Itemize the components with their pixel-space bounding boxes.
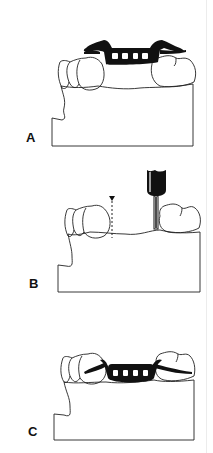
panel-b: B [0,150,213,300]
cast-with-framework-illustration [0,0,213,150]
panel-c: C [0,300,213,453]
arrowhead-icon [109,196,115,201]
panel-a: A [0,0,213,150]
panel-label-b: B [29,276,38,291]
bur-tool [147,170,166,229]
mesh-hole [112,53,118,59]
panel-label-a: A [26,130,35,145]
panel-label-c: C [28,424,37,439]
